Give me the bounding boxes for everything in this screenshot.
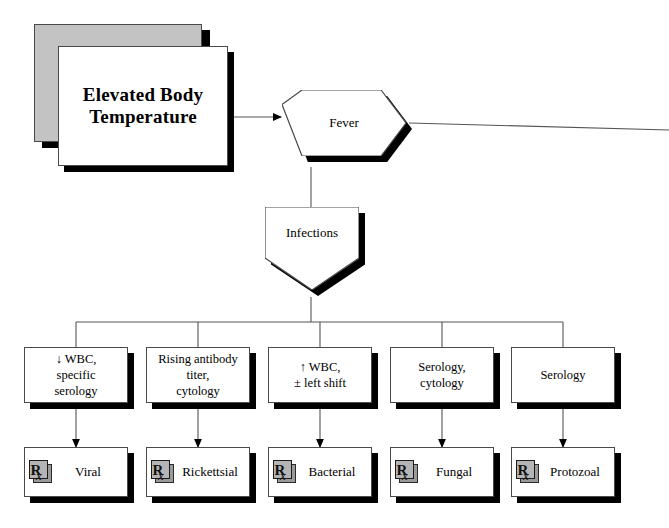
treatment-box-viral[interactable]: R x Viral: [24, 447, 134, 503]
test-line: ± left shift: [294, 375, 346, 391]
treatment-box-panel[interactable]: R x Bacterial: [268, 447, 372, 497]
decision-node-infections[interactable]: Infections: [265, 207, 385, 307]
treatment-box-panel[interactable]: R x Fungal: [390, 447, 494, 497]
rx-icon: R x: [516, 460, 540, 484]
test-box-panel[interactable]: Serology: [511, 347, 615, 403]
test-box-panel[interactable]: Rising antibody titer, cytology: [146, 347, 250, 403]
rx-icon: R x: [151, 460, 175, 484]
treatment-box-fungal[interactable]: R x Fungal: [390, 447, 500, 503]
test-box-fungal[interactable]: Serology, cytology: [390, 347, 500, 409]
treatment-box-panel[interactable]: R x Rickettsial: [146, 447, 250, 497]
rx-icon: R x: [273, 460, 297, 484]
treatment-box-rickettsial[interactable]: R x Rickettsial: [146, 447, 256, 503]
svg-text:x: x: [35, 468, 42, 483]
treatment-box-protozoal[interactable]: R x Protozoal: [511, 447, 621, 503]
root-title-line2: Temperature: [83, 106, 203, 128]
test-box-rickettsial[interactable]: Rising antibody titer, cytology: [146, 347, 256, 409]
test-box-viral[interactable]: ↓ WBC, specific serology: [24, 347, 134, 409]
test-line: Rising antibody: [158, 351, 238, 367]
treatment-label: Protozoal: [542, 464, 614, 480]
test-line: ↓ WBC,: [54, 351, 97, 367]
root-front-panel[interactable]: Elevated Body Temperature: [58, 46, 228, 166]
infections-label: Infections: [265, 207, 359, 259]
test-box-protozoal[interactable]: Serology: [511, 347, 621, 409]
flowchart-canvas: Elevated Body Temperature Fever Infectio…: [0, 0, 669, 528]
treatment-label: Fungal: [421, 464, 493, 480]
test-line: serology: [54, 383, 97, 399]
root-node[interactable]: Elevated Body Temperature: [34, 24, 244, 174]
test-box-panel[interactable]: ↓ WBC, specific serology: [24, 347, 128, 403]
test-box-panel[interactable]: ↑ WBC, ± left shift: [268, 347, 372, 403]
svg-text:x: x: [522, 468, 529, 483]
treatment-box-panel[interactable]: R x Protozoal: [511, 447, 615, 497]
test-line: ↑ WBC,: [294, 359, 346, 375]
fever-label: Fever: [282, 90, 406, 156]
test-line: cytology: [158, 383, 238, 399]
test-line: specific: [54, 367, 97, 383]
treatment-label: Rickettsial: [177, 464, 249, 480]
test-box-bacterial[interactable]: ↑ WBC, ± left shift: [268, 347, 378, 409]
test-line: Serology,: [418, 359, 465, 375]
root-title-line1: Elevated Body: [83, 84, 203, 106]
test-line: cytology: [418, 375, 465, 391]
edge-fever-offpage: [409, 123, 669, 130]
svg-text:x: x: [157, 468, 164, 483]
test-line: titer,: [158, 367, 238, 383]
svg-text:x: x: [279, 468, 286, 483]
treatment-box-panel[interactable]: R x Viral: [24, 447, 128, 497]
test-box-panel[interactable]: Serology, cytology: [390, 347, 494, 403]
decision-node-fever[interactable]: Fever: [282, 90, 422, 170]
rx-icon: R x: [29, 460, 53, 484]
treatment-label: Bacterial: [299, 464, 371, 480]
rx-icon: R x: [395, 460, 419, 484]
test-line: Serology: [540, 367, 585, 383]
treatment-label: Viral: [55, 464, 127, 480]
svg-text:x: x: [401, 468, 408, 483]
treatment-box-bacterial[interactable]: R x Bacterial: [268, 447, 378, 503]
